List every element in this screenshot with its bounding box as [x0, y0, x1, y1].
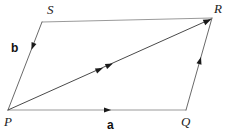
vertex-label-q: Q — [181, 115, 190, 128]
geometry-figure: P Q R S a b — [0, 0, 234, 137]
arrowhead-pq — [104, 107, 111, 112]
arrowhead-ps — [29, 42, 36, 51]
arrowhead-pr-second — [105, 61, 114, 69]
vertex-label-r: R — [214, 2, 222, 15]
edge-sr — [42, 18, 212, 22]
vertex-label-s: S — [47, 3, 54, 16]
vertex-label-p: P — [4, 115, 12, 128]
arrowhead-pr-first — [95, 65, 104, 73]
vector-label-b: b — [11, 42, 18, 54]
parallelogram-svg — [0, 0, 234, 137]
vector-label-a: a — [107, 119, 114, 131]
arrowhead-qr — [197, 56, 204, 64]
